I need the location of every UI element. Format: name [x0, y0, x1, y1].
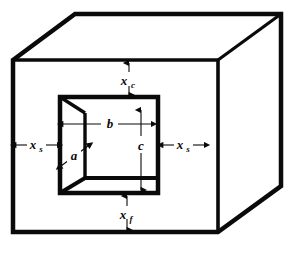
label-top-clearance-subscript: c	[131, 80, 135, 90]
label-cavity-width: b	[107, 116, 114, 131]
label-cavity-height: c	[138, 138, 144, 153]
label-right-clearance-subscript: s	[185, 144, 190, 154]
label-bottom-clearance-symbol: x	[119, 207, 127, 222]
label-right-clearance-symbol: x	[176, 137, 184, 152]
label-left-clearance-symbol: x	[29, 137, 37, 152]
label-cavity-depth: a	[71, 148, 78, 163]
label-left-clearance-subscript: s	[38, 144, 43, 154]
figure-root: x c x f x s x s b	[0, 0, 292, 260]
label-top-clearance-symbol: x	[120, 73, 128, 88]
enclosure-diagram: x c x f x s x s b	[0, 0, 292, 260]
